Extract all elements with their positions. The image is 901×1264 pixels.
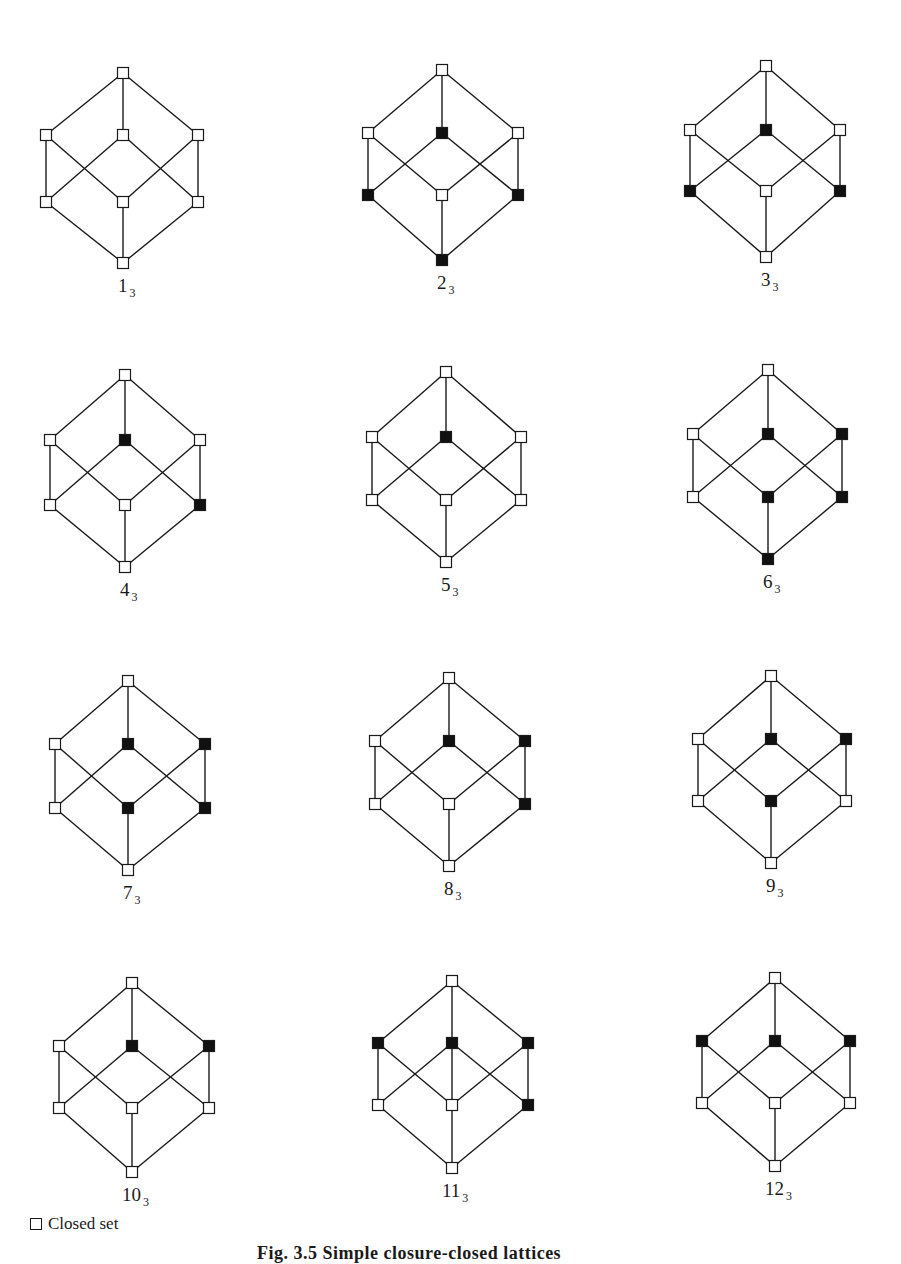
open-square-node-upper_left [370,736,381,747]
open-square-node-lower_right [516,495,527,506]
filled-square-node-upper_right [845,1036,856,1047]
filled-square-node-upper_mid [444,736,455,747]
open-square-node-upper_left [54,1041,65,1052]
edge-top-upper_left [50,375,125,440]
open-square-node-lower_mid [127,1103,138,1114]
diagram-label: 73 [123,882,141,907]
open-square-node-upper_left [367,432,378,443]
lattice-diagram-1: 13 [41,68,204,301]
open-square-node-upper_left [688,429,699,440]
open-square-node-lower_left [697,1098,708,1109]
edge-lower_left-bottom [46,202,123,263]
lattice-diagram-7: 73 [50,676,211,908]
edge-lower_right-bottom [766,191,840,257]
open-square-node-lower_mid [437,190,448,201]
diagram-label: 23 [437,272,455,297]
edge-lower_left-bottom [50,505,125,567]
open-square-node-lower_left [693,796,704,807]
lattice-diagram-6: 63 [688,365,848,597]
edge-top-upper_right [442,70,518,133]
filled-square-node-lower_mid [123,803,134,814]
edge-top-upper_left [690,66,766,130]
diagram-label: 83 [444,878,462,903]
edge-lower_right-bottom [442,195,518,260]
edge-lower_right-bottom [768,497,842,559]
edge-top-upper_right [446,372,521,437]
filled-square-node-upper_right [837,429,848,440]
open-square-node-lower_mid [447,1100,458,1111]
edge-top-upper_right [452,981,528,1043]
filled-square-node-lower_right [513,190,524,201]
open-square-node-bottom [120,562,131,573]
lattice-diagram-3: 33 [685,61,846,295]
edge-lower_left-bottom [375,804,449,866]
open-square-node-top [123,676,134,687]
filled-square-node-upper_left [373,1038,384,1049]
edge-lower_left-bottom [55,808,128,870]
open-square-node-lower_left [54,1103,65,1114]
open-square-node-lower_mid [770,1098,781,1109]
open-square-node-bottom [118,258,129,269]
filled-square-node-upper_right [523,1038,534,1049]
edge-top-upper_right [123,73,198,135]
filled-square-node-bottom [763,554,774,565]
open-square-node-lower_right [193,197,204,208]
open-square-node-upper_right [516,432,527,443]
diagram-label: 113 [442,1180,468,1205]
open-square-node-bottom [770,1161,781,1172]
filled-square-node-upper_mid [770,1036,781,1047]
edge-top-upper_left [46,73,123,135]
filled-square-node-upper_right [200,739,211,750]
filled-square-node-lower_right [195,500,206,511]
open-square-node-top [763,365,774,376]
open-square-node-upper_left [45,435,56,446]
edge-lower_right-bottom [132,1108,209,1172]
open-square-node-lower_left [370,799,381,810]
edge-lower_right-bottom [125,505,200,567]
open-square-node-upper_left [693,734,704,745]
open-square-node-upper_left [363,128,374,139]
open-square-node-top [441,367,452,378]
edge-top-upper_right [771,676,846,739]
open-square-node-lower_right [845,1098,856,1109]
open-square-node-upper_left [50,739,61,750]
open-square-node-upper_left [685,125,696,136]
open-square-node-bottom [444,861,455,872]
filled-square-node-upper_mid [127,1041,138,1052]
open-square-node-bottom [761,252,772,263]
open-square-node-bottom [123,865,134,876]
edge-top-upper_right [766,66,840,130]
open-square-node-lower_mid [444,799,455,810]
edge-top-upper_left [702,978,775,1041]
open-square-node-upper_mid [118,130,129,141]
filled-square-node-upper_mid [763,429,774,440]
open-square-node-top [437,65,448,76]
open-square-node-bottom [441,557,452,568]
edge-lower_right-bottom [128,808,205,870]
open-square-node-bottom [766,858,777,869]
filled-square-node-lower_mid [763,492,774,503]
filled-square-node-bottom [437,255,448,266]
filled-square-node-upper_mid [123,739,134,750]
open-square-node-lower_left [688,492,699,503]
lattice-diagram-11: 113 [373,976,534,1206]
open-square-node-lower_mid [120,500,131,511]
edge-top-upper_left [375,678,449,741]
filled-square-node-upper_mid [761,125,772,136]
lattice-diagram-2: 23 [363,65,524,298]
open-square-node-top [118,68,129,79]
filled-square-node-lower_right [837,492,848,503]
edge-top-upper_left [55,681,128,744]
lattice-diagram-9: 93 [693,671,852,901]
diagram-label: 13 [118,275,136,300]
lattice-diagram-4: 43 [45,370,206,605]
diagram-label: 33 [761,269,779,294]
filled-square-node-lower_left [685,186,696,197]
lattice-diagram-5: 53 [367,367,527,600]
open-square-node-top [444,673,455,684]
open-square-node-lower_right [204,1103,215,1114]
edge-lower_right-bottom [771,801,846,863]
legend-label: Closed set [48,1214,118,1234]
diagram-label: 53 [441,574,459,599]
open-square-icon [30,1218,42,1230]
